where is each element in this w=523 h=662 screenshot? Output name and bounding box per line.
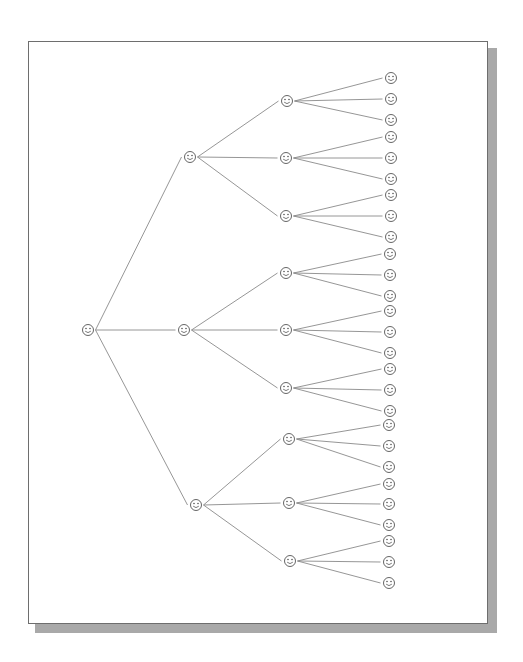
edge-level1-to-level2 <box>198 101 279 157</box>
level1-smiley-face-icon <box>191 500 202 511</box>
leaf-smiley-face-icon <box>384 520 395 531</box>
edge-level2-to-leaf <box>297 503 381 525</box>
edge-level1-to-level2 <box>204 505 282 561</box>
level1-smiley-face-icon <box>179 325 190 336</box>
leaf-smiley-face-icon <box>384 499 395 510</box>
level2-smiley-face-icon <box>281 153 292 164</box>
edge-level2-to-leaf <box>294 158 383 179</box>
edge-level2-to-leaf <box>295 99 383 101</box>
edge-level2-to-leaf <box>297 503 381 504</box>
edge-root-to-level1 <box>96 330 188 505</box>
level2-smiley-face-icon <box>284 498 295 509</box>
leaf-smiley-face-icon <box>386 132 397 143</box>
leaf-smiley-face-icon <box>385 270 396 281</box>
edge-level2-to-leaf <box>294 330 382 353</box>
edge-level2-to-leaf <box>298 541 381 561</box>
leaf-smiley-face-icon <box>385 327 396 338</box>
level2-smiley-face-icon <box>281 383 292 394</box>
edge-level2-to-leaf <box>294 388 382 390</box>
leaf-smiley-face-icon <box>386 174 397 185</box>
leaf-smiley-face-icon <box>385 364 396 375</box>
leaf-smiley-face-icon <box>384 557 395 568</box>
edge-level2-to-leaf <box>295 78 383 101</box>
leaf-smiley-face-icon <box>384 462 395 473</box>
leaf-smiley-face-icon <box>386 94 397 105</box>
leaf-smiley-face-icon <box>386 190 397 201</box>
level2-smiley-face-icon <box>282 96 293 107</box>
edge-level2-to-leaf <box>294 137 383 158</box>
leaf-smiley-face-icon <box>385 306 396 317</box>
edge-level2-to-leaf <box>294 388 382 411</box>
tree-nodes <box>83 73 397 589</box>
leaf-smiley-face-icon <box>385 406 396 417</box>
leaf-smiley-face-icon <box>384 578 395 589</box>
root-smiley-face-icon <box>83 325 94 336</box>
leaf-smiley-face-icon <box>384 479 395 490</box>
level2-smiley-face-icon <box>284 434 295 445</box>
tree-diagram <box>0 0 523 662</box>
edge-level1-to-level2 <box>204 439 281 505</box>
edge-level2-to-leaf <box>294 369 382 388</box>
edge-level1-to-level2 <box>192 273 278 330</box>
leaf-smiley-face-icon <box>386 153 397 164</box>
leaf-smiley-face-icon <box>386 73 397 84</box>
edge-level1-to-level2 <box>198 157 278 216</box>
leaf-smiley-face-icon <box>384 420 395 431</box>
level2-smiley-face-icon <box>281 268 292 279</box>
leaf-smiley-face-icon <box>386 232 397 243</box>
edge-level2-to-leaf <box>294 273 382 275</box>
level1-smiley-face-icon <box>185 152 196 163</box>
edge-level2-to-leaf <box>297 425 381 439</box>
edge-level2-to-leaf <box>294 195 383 216</box>
edge-level2-to-leaf <box>294 330 382 332</box>
leaf-smiley-face-icon <box>385 348 396 359</box>
edge-level2-to-leaf <box>298 561 381 562</box>
edge-level2-to-leaf <box>294 216 383 237</box>
edge-level2-to-leaf <box>297 439 381 446</box>
edge-level2-to-leaf <box>297 439 381 467</box>
level2-smiley-face-icon <box>281 325 292 336</box>
tree-edges <box>96 78 383 583</box>
leaf-smiley-face-icon <box>385 291 396 302</box>
edge-level2-to-leaf <box>295 101 383 120</box>
leaf-smiley-face-icon <box>385 249 396 260</box>
edge-level2-to-leaf <box>298 561 381 583</box>
leaf-smiley-face-icon <box>386 211 397 222</box>
level2-smiley-face-icon <box>281 211 292 222</box>
leaf-smiley-face-icon <box>384 536 395 547</box>
edge-root-to-level1 <box>96 157 182 330</box>
edge-level2-to-leaf <box>294 254 382 273</box>
edge-level1-to-level2 <box>204 503 281 505</box>
leaf-smiley-face-icon <box>386 115 397 126</box>
level2-smiley-face-icon <box>285 556 296 567</box>
leaf-smiley-face-icon <box>384 441 395 452</box>
edge-level1-to-level2 <box>192 330 278 388</box>
edge-level1-to-level2 <box>198 157 278 158</box>
edge-level2-to-leaf <box>297 484 381 503</box>
edge-level2-to-leaf <box>294 273 382 296</box>
leaf-smiley-face-icon <box>385 385 396 396</box>
edge-level2-to-leaf <box>294 311 382 330</box>
